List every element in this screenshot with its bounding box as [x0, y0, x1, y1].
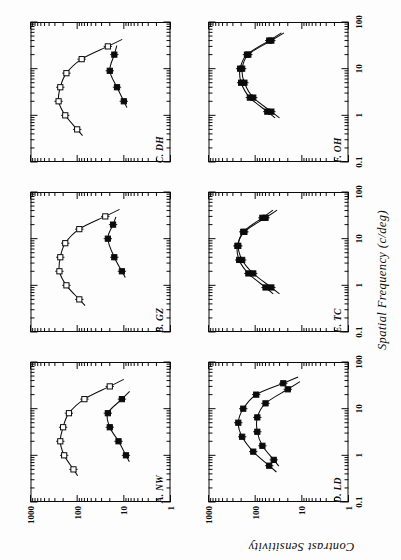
plot-panel-e: E. TC0.1110100: [208, 192, 348, 332]
x-tick-label: 100: [353, 15, 363, 29]
data-point-marker: [123, 453, 128, 458]
data-point-marker: [57, 255, 62, 260]
data-point-marker: [110, 222, 115, 227]
x-tick-label: 1: [353, 283, 363, 288]
data-point-marker: [266, 463, 271, 468]
series-curve: [239, 33, 281, 118]
data-point-marker: [107, 68, 112, 73]
data-point-marker: [121, 99, 126, 104]
y-tick-label: 1: [165, 506, 175, 536]
data-point-marker: [239, 66, 244, 71]
data-point-marker: [115, 439, 120, 444]
panel-plot-area: [30, 22, 170, 162]
data-point-marker: [111, 52, 116, 57]
x-tick-label: 0.1: [353, 496, 363, 507]
y-tick-label: 1000: [25, 506, 35, 536]
x-tick-label: 1: [353, 113, 363, 118]
data-point-marker: [70, 467, 75, 472]
x-tick-label: 10: [353, 234, 363, 243]
data-point-marker: [107, 384, 112, 389]
data-point-marker: [105, 44, 110, 49]
data-point-marker: [62, 113, 67, 118]
plot-panel-a: A. NW1000100101: [30, 362, 170, 502]
data-point-marker: [102, 214, 107, 219]
data-point-marker: [60, 425, 65, 430]
data-point-marker: [262, 285, 267, 290]
data-point-marker: [253, 392, 258, 397]
y-tick-label: 100: [72, 506, 82, 536]
series-curve: [237, 210, 277, 294]
data-point-marker: [76, 297, 81, 302]
rotated-figure-canvas: A. NW1000100101B. GZC. DHD. LD0.11101001…: [0, 0, 401, 560]
data-point-marker: [250, 271, 255, 276]
data-point-marker: [268, 38, 273, 43]
data-point-marker: [119, 397, 124, 402]
series-curve: [58, 209, 119, 305]
x-tick-label: 10: [353, 64, 363, 73]
data-point-marker: [259, 215, 264, 220]
y-tick-label: 10: [118, 506, 128, 536]
data-point-marker: [114, 85, 119, 90]
data-point-marker: [250, 95, 255, 100]
series-curve: [256, 382, 300, 467]
data-point-marker: [63, 283, 68, 288]
data-point-marker: [79, 57, 84, 62]
series-curve: [241, 33, 283, 118]
data-point-marker: [57, 439, 62, 444]
data-point-marker: [57, 85, 62, 90]
data-point-marker: [285, 387, 290, 392]
data-point-marker: [271, 457, 276, 462]
data-point-marker: [240, 406, 245, 411]
data-point-marker: [262, 401, 267, 406]
x-tick-label: 0.1: [353, 326, 363, 337]
data-point-marker: [111, 255, 116, 260]
plot-panel-f: F. OH0.1110100: [208, 22, 348, 162]
plot-panel-c: C. DH: [30, 22, 170, 162]
panel-plot-area: [30, 362, 170, 502]
data-point-marker: [107, 425, 112, 430]
panel-plot-area: [208, 22, 348, 162]
plot-panel-d: D. LD0.11101001000100101: [208, 362, 348, 502]
x-axis-title: Spatial Frequency (c/deg): [374, 0, 389, 560]
x-tick-label: 1: [353, 453, 363, 458]
data-point-marker: [254, 429, 259, 434]
y-tick-label: 10: [296, 506, 306, 536]
data-point-marker: [259, 443, 264, 448]
data-point-marker: [250, 449, 255, 454]
data-point-marker: [245, 52, 250, 57]
data-point-marker: [105, 236, 110, 241]
y-tick-label: 1: [343, 506, 353, 536]
x-tick-label: 100: [353, 355, 363, 369]
data-point-marker: [63, 71, 68, 76]
data-point-marker: [61, 453, 66, 458]
y-axis-title: Contrast Sensitivity: [248, 539, 354, 554]
data-point-marker: [254, 415, 259, 420]
data-point-marker: [56, 269, 61, 274]
data-point-marker: [280, 381, 285, 386]
panel-plot-area: [208, 192, 348, 332]
plot-panel-b: B. GZ: [30, 192, 170, 332]
figure-root: A. NW1000100101B. GZC. DHD. LD0.11101001…: [0, 0, 401, 560]
data-point-marker: [81, 397, 86, 402]
x-tick-label: 10: [353, 404, 363, 413]
y-tick-label: 100: [250, 506, 260, 536]
data-point-marker: [62, 241, 67, 246]
data-point-marker: [239, 434, 244, 439]
data-point-marker: [235, 243, 240, 248]
data-point-marker: [74, 127, 79, 132]
data-point-marker: [76, 227, 81, 232]
x-tick-label: 100: [353, 185, 363, 199]
x-tick-label: 0.1: [353, 156, 363, 167]
panel-plot-area: [30, 192, 170, 332]
data-point-marker: [235, 420, 240, 425]
data-point-marker: [119, 269, 124, 274]
data-point-marker: [105, 411, 110, 416]
data-point-marker: [268, 285, 273, 290]
panel-grid: A. NW1000100101B. GZC. DHD. LD0.11101001…: [0, 0, 401, 560]
y-tick-label: 1000: [203, 506, 213, 536]
data-point-marker: [239, 257, 244, 262]
data-point-marker: [240, 229, 245, 234]
data-point-marker: [241, 80, 246, 85]
panel-plot-area: [208, 362, 348, 502]
data-point-marker: [66, 411, 71, 416]
